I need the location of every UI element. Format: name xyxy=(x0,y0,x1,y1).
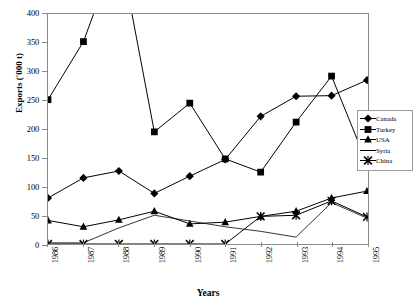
x-axis-tick-label: 1991 xyxy=(229,247,238,263)
legend-label: Turkey xyxy=(376,126,395,133)
plot-area xyxy=(47,13,369,245)
series-canada xyxy=(48,76,368,202)
series-canvas xyxy=(48,14,368,244)
legend-item-turkey[interactable]: Turkey xyxy=(360,125,410,135)
x-axis-tick-label: 1990 xyxy=(194,247,203,263)
data-point-usa xyxy=(150,207,158,214)
data-point-canada xyxy=(150,189,158,197)
legend-item-syria[interactable]: Syria xyxy=(360,146,410,156)
data-point-china xyxy=(48,240,52,244)
chart-figure: Exports ('000 t) 40035030025020015010050… xyxy=(0,0,417,305)
x-axis-tick-label: 1992 xyxy=(265,247,274,263)
y-axis-tick-label: 250 xyxy=(27,96,39,105)
data-point-turkey xyxy=(151,129,158,136)
diamond-marker-icon xyxy=(360,114,376,123)
y-axis-tick-label: 400 xyxy=(27,9,39,18)
x-axis-tick-mark xyxy=(118,242,119,247)
data-point-turkey xyxy=(293,119,300,126)
x-axis-tick-label: 1987 xyxy=(87,247,96,263)
y-axis-tick-label: 200 xyxy=(27,125,39,134)
y-axis-tick-label: 50 xyxy=(31,212,39,221)
x-axis-tick-mark xyxy=(297,242,298,247)
data-point-turkey xyxy=(186,100,193,107)
x-axis-tick-label: 1993 xyxy=(301,247,310,263)
data-point-canada xyxy=(292,92,300,100)
data-point-turkey xyxy=(257,169,264,176)
data-point-canada xyxy=(79,174,87,182)
x-axis-tick-label: 1986 xyxy=(51,247,60,263)
y-axis: Exports ('000 t) 40035030025020015010050… xyxy=(0,0,45,260)
y-axis-title: Exports ('000 t) xyxy=(14,28,24,138)
x-marker-icon xyxy=(360,156,376,165)
legend-item-usa[interactable]: USA xyxy=(360,135,410,145)
legend-item-canada[interactable]: Canada xyxy=(360,114,410,124)
y-axis-tick-label: 350 xyxy=(27,38,39,47)
series-usa xyxy=(48,187,368,230)
series-china xyxy=(48,196,368,244)
y-axis-tick-label: 300 xyxy=(27,67,39,76)
x-axis-tick-label: 1995 xyxy=(372,247,381,263)
x-axis-tick-mark xyxy=(261,242,262,247)
data-point-canada xyxy=(115,167,123,175)
data-point-turkey xyxy=(222,156,229,163)
x-axis-tick-mark xyxy=(368,242,369,247)
series-turkey xyxy=(48,14,368,175)
x-axis-tick-mark xyxy=(190,242,191,247)
data-point-canada xyxy=(186,172,194,180)
y-axis-tick-label: 0 xyxy=(35,241,39,250)
legend-label: USA xyxy=(376,136,390,143)
x-axis-tick-mark xyxy=(154,242,155,247)
x-axis-tick-mark xyxy=(83,242,84,247)
data-point-canada xyxy=(327,92,335,100)
legend-label: Canada xyxy=(376,115,396,122)
legend-label: Syria xyxy=(376,147,390,154)
data-point-usa xyxy=(363,187,368,194)
data-point-turkey xyxy=(80,38,87,45)
x-axis-tick-mark xyxy=(332,242,333,247)
square-marker-icon xyxy=(360,125,376,134)
legend-item-china[interactable]: China xyxy=(360,156,410,166)
y-axis-tick-label: 150 xyxy=(27,154,39,163)
x-axis: 1986198719881989199019911992199319941995 xyxy=(47,247,369,289)
x-axis-tick-mark xyxy=(47,242,48,247)
x-axis-tick-mark xyxy=(225,242,226,247)
x-axis-tick-label: 1994 xyxy=(336,247,345,263)
y-axis-tick-label: 100 xyxy=(27,183,39,192)
triangle-marker-icon xyxy=(360,135,376,144)
data-point-canada xyxy=(363,76,368,84)
x-axis-tick-label: 1989 xyxy=(158,247,167,263)
x-axis-title: Years xyxy=(47,288,369,298)
none-marker-icon xyxy=(360,146,376,155)
data-point-turkey xyxy=(328,73,335,80)
data-point-canada xyxy=(48,194,52,202)
data-point-turkey xyxy=(48,96,51,103)
legend: CanadaTurkeyUSASyriaChina xyxy=(357,110,413,171)
x-axis-tick-label: 1988 xyxy=(122,247,131,263)
data-point-usa xyxy=(48,216,52,223)
legend-label: China xyxy=(376,157,392,164)
